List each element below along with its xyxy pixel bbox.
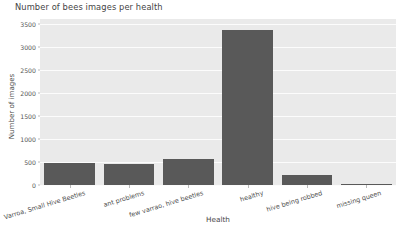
y-axis-tick-label: 3500 <box>20 20 36 27</box>
plot-area <box>40 19 396 185</box>
bar <box>222 30 272 185</box>
y-axis-tick-label: 2000 <box>20 89 36 96</box>
bar <box>104 164 154 185</box>
y-axis-tick-label: 3000 <box>20 43 36 50</box>
x-axis-tick-label: ant problems <box>103 189 146 209</box>
x-axis-tick-label: missing queen <box>336 189 383 210</box>
bar-series <box>40 19 396 185</box>
x-axis-tick-mark <box>188 185 189 188</box>
bar <box>163 159 213 185</box>
x-axis-tick-mark <box>307 185 308 188</box>
y-axis-tick-label: 2500 <box>20 66 36 73</box>
x-axis-tick-label: hive being robbed <box>266 189 324 214</box>
bar <box>44 163 94 185</box>
x-axis-tick-mark <box>70 185 71 188</box>
bar-chart-figure: Number of bees images per health 0500100… <box>0 0 413 232</box>
y-axis-tick-label: 500 <box>24 158 36 165</box>
y-axis-tick-label: 1000 <box>20 135 36 142</box>
x-axis-tick-mark <box>366 185 367 188</box>
x-axis-tick-mark <box>129 185 130 188</box>
chart-title: Number of bees images per health <box>15 2 163 12</box>
y-axis-tick-label: 0 <box>32 182 36 189</box>
bar <box>282 175 332 185</box>
x-axis-label: Health <box>40 215 396 224</box>
x-axis-tick-mark <box>248 185 249 188</box>
y-axis-label: Number of images <box>7 47 16 167</box>
y-axis-tick-label: 1500 <box>20 112 36 119</box>
x-axis-tick-label: healthy <box>239 189 264 204</box>
